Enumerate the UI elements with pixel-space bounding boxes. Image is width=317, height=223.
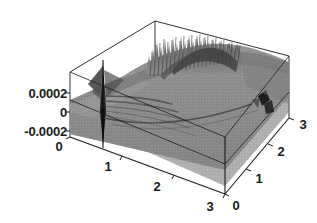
z-axis-tick-bottom: -0.0002 (24, 125, 67, 138)
surface-noisy-ridge (146, 34, 241, 80)
y-axis-tick-2: 2 (277, 145, 284, 158)
y-axis-tick-0: 0 (232, 199, 239, 212)
x-axis-tick-2: 2 (153, 180, 160, 193)
surface-plot-figure: 0.0002 0 -0.0002 0 1 2 3 0 1 2 3 (0, 0, 317, 223)
y-axis-tick-3: 3 (299, 118, 306, 131)
x-axis-tick-3: 3 (206, 200, 213, 213)
z-axis-tick-mid: 0 (60, 106, 67, 119)
surface-mesh (70, 34, 289, 186)
z-axis-tick-top: 0.0002 (28, 87, 67, 100)
x-axis-tick-1: 1 (104, 160, 111, 173)
x-axis-tick-0: 0 (55, 140, 62, 153)
y-axis-tick-1: 1 (255, 172, 262, 185)
